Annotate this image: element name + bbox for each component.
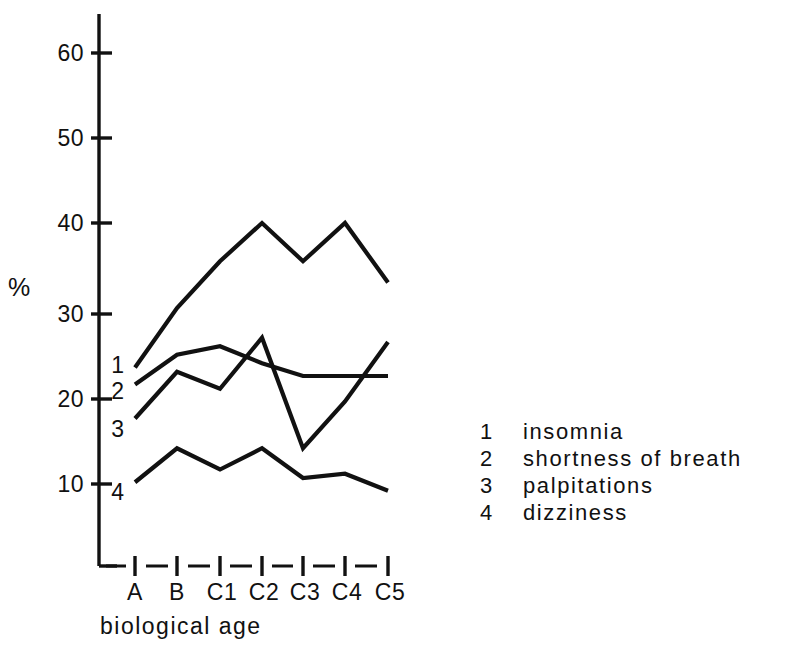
y-tick-label-40: 40 — [57, 210, 84, 236]
x-label-C4: C4 — [332, 579, 362, 605]
y-tick-label-20: 20 — [57, 386, 84, 412]
x-label-C5: C5 — [375, 579, 405, 605]
legend-num-1: 1 — [480, 419, 492, 444]
x-axis-ticks — [135, 556, 388, 576]
series-tag-2: 2 — [111, 378, 124, 404]
legend-label-2: shortness of breath — [523, 446, 742, 471]
series-line-dizziness — [135, 448, 388, 491]
y-axis-ticks — [91, 53, 112, 484]
y-tick-label-60: 60 — [57, 40, 84, 66]
legend-label-4: dizziness — [523, 500, 628, 525]
chart-svg: 60 50 40 30 20 10 % — [0, 0, 797, 647]
x-axis-title: biological age — [100, 613, 262, 639]
series-tag-1: 1 — [111, 352, 124, 378]
series-tag-4: 4 — [111, 479, 124, 505]
series-line-palpitations — [135, 338, 388, 449]
series-line-insomnia — [135, 223, 388, 368]
legend: 1 insomnia 2 shortness of breath 3 palpi… — [480, 419, 742, 525]
y-tick-label-30: 30 — [57, 301, 84, 327]
x-label-A: A — [127, 579, 143, 605]
y-tick-label-50: 50 — [57, 125, 84, 151]
legend-label-1: insomnia — [523, 419, 624, 444]
x-label-C2: C2 — [249, 579, 279, 605]
legend-num-3: 3 — [480, 473, 492, 498]
y-axis-title: % — [8, 273, 30, 301]
y-tick-label-10: 10 — [57, 471, 84, 497]
chart-figure: 60 50 40 30 20 10 % — [0, 0, 797, 647]
legend-label-3: palpitations — [523, 473, 654, 498]
legend-num-4: 4 — [480, 500, 492, 525]
x-label-B: B — [169, 579, 185, 605]
series-tag-3: 3 — [111, 416, 124, 442]
y-axis-tick-labels: 60 50 40 30 20 10 — [57, 40, 84, 497]
x-label-C1: C1 — [207, 579, 237, 605]
x-axis-category-labels: A B C1 C2 C3 C4 C5 — [127, 579, 405, 605]
legend-num-2: 2 — [480, 446, 492, 471]
x-label-C3: C3 — [290, 579, 320, 605]
